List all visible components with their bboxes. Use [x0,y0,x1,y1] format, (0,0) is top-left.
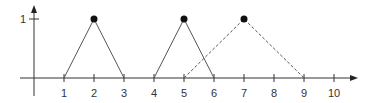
x-tick-label: 8 [271,87,277,99]
x-tick-label: 3 [121,87,127,99]
x-tick-labels: 1 2 3 4 5 6 7 8 9 10 [61,87,340,99]
x-tick-label: 1 [61,87,67,99]
x-tick-label: 2 [91,87,97,99]
x-tick-label: 10 [328,87,340,99]
x-axis-arrow-icon [350,75,358,81]
x-tick-label: 7 [241,87,247,99]
y-tick-label-1: 1 [20,13,26,25]
peak-dot-1 [91,16,98,23]
triangular-functions-chart: 1 1 2 3 4 5 6 7 8 9 10 [0,0,379,103]
triangle-series-2 [154,19,214,78]
x-tick-label: 4 [151,87,157,99]
peak-dot-2 [181,16,188,23]
triangle-series-3-dashed [184,19,304,78]
x-tick-label: 9 [301,87,307,99]
peak-dot-3 [241,16,248,23]
x-tick-label: 5 [181,87,187,99]
x-tick-label: 6 [211,87,217,99]
triangle-series-1 [64,19,124,78]
y-axis-arrow-icon [31,5,37,13]
